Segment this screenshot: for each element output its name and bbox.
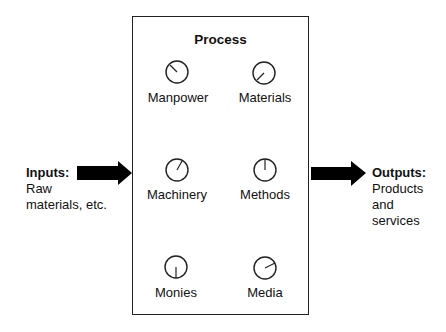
dial-materials-icon — [253, 62, 275, 84]
dial-label-methods: Methods — [220, 187, 310, 202]
outputs-line: Products — [372, 181, 426, 197]
dial-label-materials: Materials — [220, 90, 310, 105]
outputs-line: and — [372, 197, 426, 213]
dial-media-icon — [254, 257, 276, 279]
dial-label-monies: Monies — [131, 285, 221, 300]
dial-machinery-icon — [166, 159, 188, 181]
inputs-line: Raw — [26, 181, 107, 197]
outputs-heading: Outputs: — [372, 165, 426, 181]
inputs-line: materials, etc. — [26, 197, 107, 213]
dial-methods-icon — [254, 159, 276, 181]
dial-monies-icon — [165, 256, 187, 278]
outputs-line: services — [372, 213, 426, 229]
inputs-text: Inputs: Raw materials, etc. — [26, 165, 107, 213]
inputs-heading: Inputs: — [26, 165, 107, 181]
dial-manpower-icon — [166, 61, 188, 83]
outputs-text: Outputs: Products and services — [372, 165, 426, 229]
output-arrow-icon — [311, 161, 366, 186]
dial-label-media: Media — [220, 285, 310, 300]
dial-label-machinery: Machinery — [132, 187, 222, 202]
dial-label-manpower: Manpower — [133, 90, 223, 105]
